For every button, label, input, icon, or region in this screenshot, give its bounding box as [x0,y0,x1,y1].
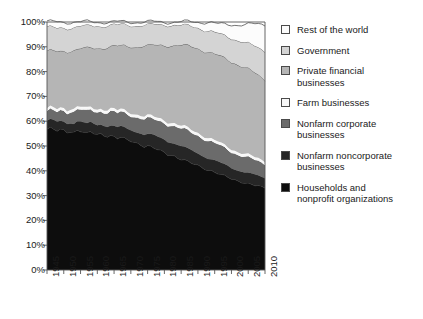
legend-item-label: Households and nonprofit organizations [297,182,393,205]
legend-swatch-icon [281,46,290,55]
legend-item-label: Nonfarm noncorporate businesses [297,150,392,173]
y-axis-tick-label: 50% [1,141,45,151]
legend-item-label: Government [297,45,349,57]
legend-item[interactable]: Nonfarm corporate businesses [281,118,423,141]
legend-item[interactable]: Government [281,45,423,57]
x-axis-tick-label: 1960 [101,256,111,277]
y-axis-tick-label: 0% [1,265,45,275]
legend-item-label: Farm businesses [297,97,369,109]
x-axis-tick-label: 1945 [51,256,61,277]
legend-item-label: Private financial businesses [297,65,364,88]
legend-item-label: Nonfarm corporate businesses [297,118,376,141]
x-axis-tick-label: 2005 [252,256,262,277]
y-axis-tick-label: 30% [1,191,45,201]
x-axis-tick-label: 1955 [85,256,95,277]
y-axis: 0%10%20%30%40%50%60%70%80%90%100% [0,0,45,319]
legend-swatch-icon [281,98,290,107]
y-axis-tick-label: 60% [1,116,45,126]
y-axis-tick-label: 70% [1,92,45,102]
legend-swatch-icon [281,183,290,192]
y-axis-tick-label: 20% [1,216,45,226]
legend-item-label: Rest of the world [297,24,368,36]
legend-item[interactable]: Rest of the world [281,24,423,36]
legend-swatch-icon [281,151,290,160]
x-axis-tick-label: 1970 [135,256,145,277]
legend-item[interactable]: Households and nonprofit organizations [281,182,423,205]
legend-item[interactable]: Farm businesses [281,97,423,109]
y-axis-tick-label: 100% [1,17,45,27]
legend-item[interactable]: Private financial businesses [281,65,423,88]
x-axis-tick-label: 1965 [118,256,128,277]
x-axis-tick-label: 1950 [68,256,78,277]
legend-swatch-icon [281,119,290,128]
x-axis-tick-label: 1985 [185,256,195,277]
y-axis-tick-label: 40% [1,166,45,176]
x-axis-tick-label: 2010 [269,256,279,277]
x-axis-tick-label: 1980 [168,256,178,277]
x-axis-tick-label: 1995 [219,256,229,277]
x-axis-tick-label: 1975 [152,256,162,277]
legend-swatch-icon [281,66,290,75]
x-axis-tick-label: 2000 [235,256,245,277]
chart-legend: Rest of the worldGovernmentPrivate finan… [281,24,423,214]
legend-item[interactable]: Nonfarm noncorporate businesses [281,150,423,173]
y-axis-tick-label: 80% [1,67,45,77]
stacked-area-chart: 0%10%20%30%40%50%60%70%80%90%100% 194519… [0,0,423,319]
y-axis-tick-label: 90% [1,42,45,52]
x-axis-tick-label: 1990 [202,256,212,277]
y-axis-tick-label: 10% [1,240,45,250]
legend-swatch-icon [281,25,290,34]
